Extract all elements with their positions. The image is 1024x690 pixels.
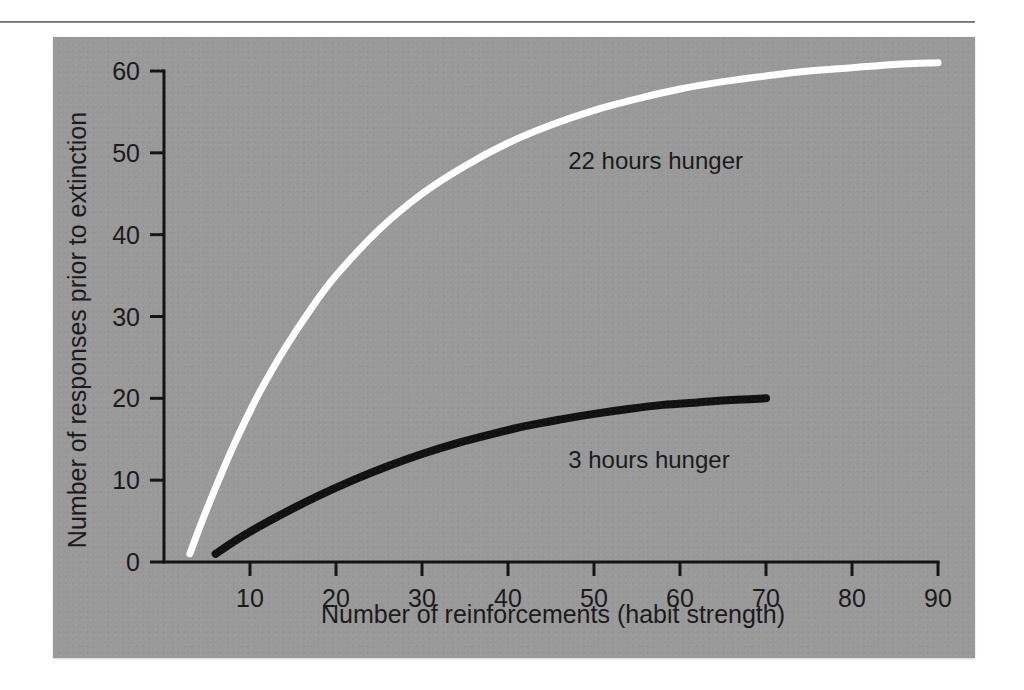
- y-axis-ticks: [150, 71, 164, 562]
- series-curve-22-hours-hunger: [190, 63, 938, 554]
- x-axis-title: Number of reinforcements (habit strength…: [321, 600, 785, 628]
- y-axis-title: Number of responses prior to extinction: [63, 112, 91, 548]
- x-tick-label: 10: [236, 584, 264, 612]
- y-tick-label: 10: [112, 466, 140, 494]
- series-group: [190, 63, 938, 554]
- series-label-22-hours-hunger: 22 hours hunger: [568, 147, 743, 174]
- y-tick-label: 40: [112, 221, 140, 249]
- chart-panel: 0102030405060 102030405060708090 Number …: [53, 37, 975, 658]
- y-tick-label: 60: [112, 57, 140, 85]
- y-axis-tick-labels: 0102030405060: [112, 57, 140, 576]
- page-top-rule: [0, 21, 975, 23]
- y-tick-label: 0: [126, 548, 140, 576]
- rule-line: [0, 21, 975, 22]
- line-chart: 0102030405060 102030405060708090 Number …: [53, 37, 975, 658]
- axes-group: [150, 71, 938, 576]
- series-curve-3-hours-hunger: [216, 398, 766, 553]
- x-tick-label: 80: [838, 584, 866, 612]
- y-tick-label: 30: [112, 303, 140, 331]
- x-tick-label: 90: [924, 584, 952, 612]
- figure-page: 0102030405060 102030405060708090 Number …: [0, 0, 1024, 690]
- y-tick-label: 20: [112, 384, 140, 412]
- series-label-3-hours-hunger: 3 hours hunger: [568, 446, 729, 473]
- y-tick-label: 50: [112, 139, 140, 167]
- x-axis-ticks: [250, 562, 938, 576]
